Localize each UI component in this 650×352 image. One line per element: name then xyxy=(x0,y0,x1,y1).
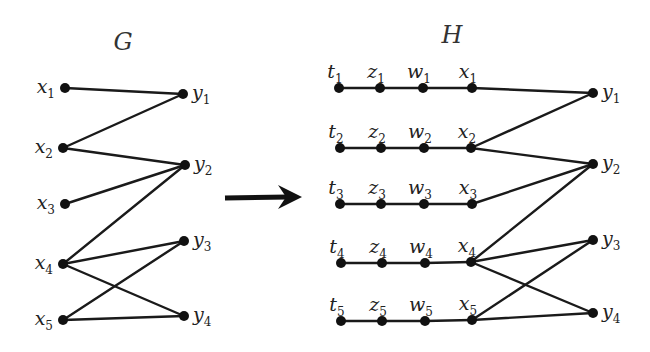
vertex-label: z5 xyxy=(368,293,387,319)
edge-x1-y1 xyxy=(472,88,593,93)
vertex-label-base: y xyxy=(601,227,613,249)
vertex-label-base: y xyxy=(192,303,204,325)
vertex-label-subscript: 2 xyxy=(613,163,621,177)
vertex-label: t5 xyxy=(329,293,344,319)
vertex-label-subscript: 4 xyxy=(425,247,433,261)
vertex-dot-icon xyxy=(588,235,598,245)
edge-x4-y2 xyxy=(63,165,185,264)
vertex-label-subscript: 3 xyxy=(47,203,55,217)
vertex-y2: y2 xyxy=(180,152,212,178)
vertex-label: x3 xyxy=(37,191,55,217)
vertex-label-subscript: 1 xyxy=(423,72,431,86)
vertex-label-subscript: 1 xyxy=(335,72,343,86)
vertex-x3: x3 xyxy=(37,191,70,217)
vertex-label-base: x xyxy=(35,251,46,273)
graph-g: G x1x2x3x4x5y1y2y3y4 xyxy=(35,28,213,333)
transform-arrow-icon xyxy=(225,185,302,209)
vertex-label: z4 xyxy=(368,235,387,261)
vertex-dot-icon xyxy=(58,259,68,269)
vertex-label-subscript: 1 xyxy=(203,93,211,107)
vertex-dot-icon xyxy=(588,88,598,98)
vertex-label: x4 xyxy=(35,251,54,277)
vertex-label: x3 xyxy=(459,176,477,202)
edge-x1-y1 xyxy=(65,88,183,94)
vertex-label: w1 xyxy=(407,60,431,86)
vertex-label-subscript: 2 xyxy=(336,132,344,146)
vertex-label: z1 xyxy=(366,60,385,86)
vertex-label: y4 xyxy=(192,303,212,329)
vertex-label-base: x xyxy=(37,191,48,213)
diagram-canvas: G x1x2x3x4x5y1y2y3y4 H t1z1w1x1t2z2w2x2t… xyxy=(0,0,650,352)
vertex-label-base: y xyxy=(601,151,613,173)
vertex-label-base: x xyxy=(35,307,46,329)
vertex-y3: y3 xyxy=(588,227,620,253)
graph-h: H t1z1w1x1t2z2w2x2t3z3w3x3t4z4w4x4t5z5w5… xyxy=(327,21,620,326)
vertex-label-subscript: 1 xyxy=(613,92,621,106)
vertex-label-base: x xyxy=(458,120,469,142)
vertex-label: w2 xyxy=(408,120,432,146)
edge-x2-y2 xyxy=(471,148,593,164)
vertex-dot-icon xyxy=(588,308,598,318)
vertex-label-base: x xyxy=(458,234,469,256)
vertex-dot-icon xyxy=(588,159,598,169)
graph-h-title: H xyxy=(441,21,464,49)
vertex-x1: x1 xyxy=(37,75,70,101)
vertex-label-subscript: 5 xyxy=(425,305,433,319)
vertex-label-subscript: 5 xyxy=(379,305,387,319)
vertex-t3: t3 xyxy=(328,176,345,209)
vertex-label: t2 xyxy=(328,120,343,146)
vertex-label-subscript: 2 xyxy=(45,147,53,161)
vertex-label-base: w xyxy=(409,235,425,257)
edge-x4-y2 xyxy=(471,164,593,262)
vertex-label: x5 xyxy=(459,292,477,318)
vertex-label: y1 xyxy=(601,80,620,106)
vertex-dot-icon xyxy=(179,311,189,321)
vertex-label: y1 xyxy=(191,81,210,107)
vertex-label-subscript: 3 xyxy=(613,239,621,253)
vertex-label-subscript: 3 xyxy=(424,188,432,202)
vertex-label-subscript: 2 xyxy=(469,132,477,146)
vertex-dot-icon xyxy=(60,83,70,93)
vertex-label: x1 xyxy=(37,75,55,101)
vertex-label-subscript: 2 xyxy=(378,132,386,146)
edge-x2-y1 xyxy=(63,94,183,148)
vertex-y3: y3 xyxy=(179,228,211,254)
vertex-label-subscript: 4 xyxy=(45,263,53,277)
vertex-label-base: x xyxy=(35,135,46,157)
vertex-x5: x5 xyxy=(35,307,68,333)
vertex-dot-icon xyxy=(179,236,189,246)
vertex-label-base: y xyxy=(193,152,205,174)
graph-g-title: G xyxy=(113,28,132,56)
edge-x2-y1 xyxy=(471,93,593,148)
vertex-label: y3 xyxy=(601,227,620,253)
vertex-label-base: y xyxy=(601,300,613,322)
vertex-label-base: x xyxy=(37,75,48,97)
vertex-label-base: x xyxy=(459,176,470,198)
edge-x2-y2 xyxy=(63,148,185,165)
vertex-label: y4 xyxy=(601,300,621,326)
vertex-label-base: y xyxy=(601,80,613,102)
vertex-dot-icon xyxy=(180,160,190,170)
vertex-label-subscript: 1 xyxy=(377,72,385,86)
vertex-label-base: y xyxy=(192,228,204,250)
vertex-label-subscript: 2 xyxy=(205,164,213,178)
vertex-label: w5 xyxy=(409,293,433,319)
vertex-label-base: w xyxy=(408,120,424,142)
vertex-label-subscript: 2 xyxy=(424,132,432,146)
vertex-label: x2 xyxy=(35,135,53,161)
edge-w5-x5 xyxy=(425,320,472,321)
vertex-label-subscript: 5 xyxy=(470,304,478,318)
vertex-label: y2 xyxy=(601,151,620,177)
vertex-dot-icon xyxy=(178,89,188,99)
vertex-label: t3 xyxy=(328,176,343,202)
vertex-label: x1 xyxy=(459,60,477,86)
vertex-t5: t5 xyxy=(329,293,346,326)
vertex-dot-icon xyxy=(60,199,70,209)
vertex-label: y2 xyxy=(193,152,212,178)
graph-g-nodes: x1x2x3x4x5y1y2y3y4 xyxy=(35,75,213,333)
vertex-x4: x4 xyxy=(35,251,68,277)
edge-x3-y2 xyxy=(472,164,593,204)
vertex-t2: t2 xyxy=(328,120,345,153)
edge-x3-y2 xyxy=(65,165,185,204)
vertex-y4: y4 xyxy=(179,303,212,329)
